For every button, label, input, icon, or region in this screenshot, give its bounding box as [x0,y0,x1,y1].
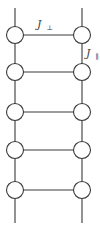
rung-coupling-symbol: J [35,18,42,31]
spin-ladder-diagram: J ⊥ J ∥ [0,0,100,234]
site-circle [74,64,91,81]
site-circle [74,104,91,121]
ladder-legs [15,8,82,223]
site-circle [74,27,91,44]
leg-coupling-label: J ∥ [84,42,99,61]
site-circle [7,27,24,44]
leg-coupling-symbol: J [84,47,91,60]
rung-coupling-subscript: ⊥ [47,24,54,32]
ladder-rungs [15,35,82,190]
site-circle [7,104,24,121]
site-circle [74,182,91,199]
leg-coupling-subscript: ∥ [96,53,99,61]
site-circle [7,142,24,159]
site-circle [74,142,91,159]
site-circle [7,182,24,199]
site-circle [7,64,24,81]
ladder-figure: J ⊥ J ∥ [0,0,100,234]
rung-coupling-label: J ⊥ [35,13,53,32]
